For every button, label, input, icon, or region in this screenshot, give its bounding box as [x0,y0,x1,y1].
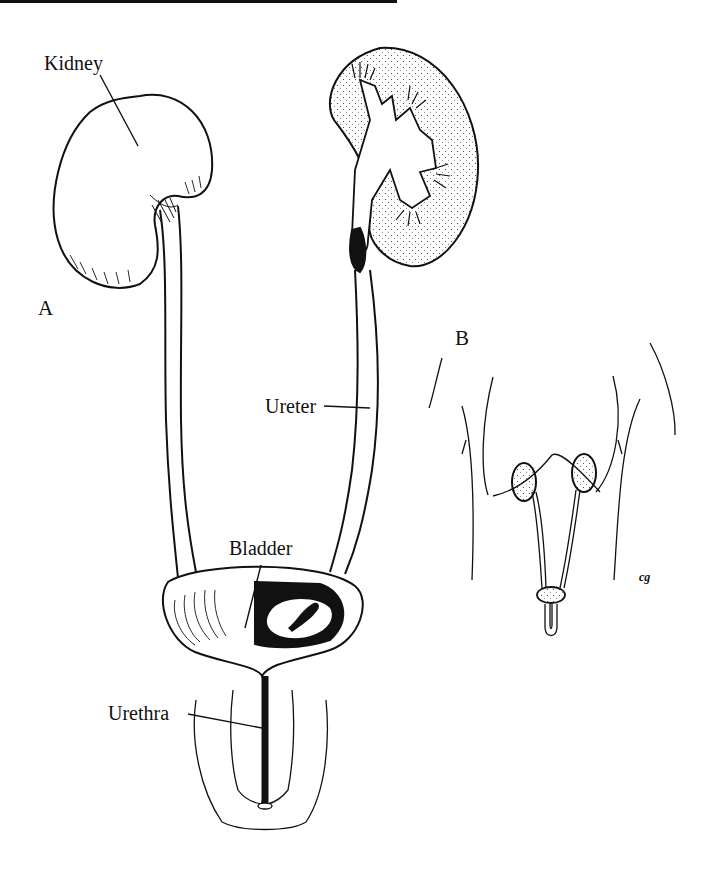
urethra-leader [188,714,262,728]
ureter-label: Ureter [265,396,316,416]
artist-signature: cg [639,571,650,583]
left-ureter [160,210,178,578]
urinary-system-illustration [0,0,705,873]
right-ureter [330,270,358,572]
b-bladder [537,587,565,603]
urethra-label: Urethra [108,703,169,723]
panel-label-a: A [38,298,53,319]
b-right-kidney [572,454,596,492]
panel-b-drawing [429,343,675,636]
bladder-label: Bladder [229,538,292,558]
urethra [262,676,268,809]
kidney-label: Kidney [44,53,103,73]
panel-label-b: B [455,328,469,349]
ureter-leader [324,406,370,408]
